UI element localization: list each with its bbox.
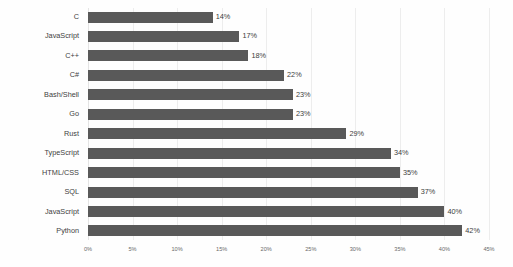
bar-row: 42%: [88, 222, 489, 240]
x-axis-tick-labels: 0%5%10%15%20%25%30%35%40%45%: [88, 245, 489, 257]
y-axis-label: TypeScript: [0, 144, 84, 162]
bar-row: 22%: [88, 66, 489, 84]
x-axis-tick-label: 35%: [394, 245, 405, 253]
x-axis-tick-label: 0%: [84, 245, 92, 253]
bar-row: 29%: [88, 125, 489, 143]
bar: [88, 148, 391, 159]
x-axis-tick-label: 20%: [261, 245, 272, 253]
bar-value-label: 35%: [403, 168, 418, 178]
bar-row: 18%: [88, 47, 489, 65]
y-axis-label: C: [0, 8, 84, 26]
bar: [88, 31, 239, 42]
bar: [88, 225, 462, 236]
bar: [88, 187, 418, 198]
y-axis-label: Python: [0, 222, 84, 240]
bar-value-label: 34%: [394, 148, 409, 158]
gridline: [489, 8, 490, 240]
bar-value-label: 14%: [216, 12, 231, 22]
y-axis-label: HTML/CSS: [0, 164, 84, 182]
bar-chart: CJavaScriptC++C#Bash/ShellGoRustTypeScri…: [0, 0, 513, 267]
plot-wrapper: CJavaScriptC++C#Bash/ShellGoRustTypeScri…: [0, 0, 513, 267]
bar-row: 34%: [88, 144, 489, 162]
bar-row: 14%: [88, 8, 489, 26]
x-axis-tick-label: 25%: [305, 245, 316, 253]
bar-value-label: 17%: [242, 31, 257, 41]
bar-value-label: 40%: [447, 207, 462, 217]
y-axis-label: SQL: [0, 183, 84, 201]
bar: [88, 206, 444, 217]
y-axis-label: C++: [0, 47, 84, 65]
bar-row: 23%: [88, 105, 489, 123]
x-axis-tick-label: 5%: [129, 245, 137, 253]
bar: [88, 12, 213, 23]
x-axis-tick-label: 45%: [483, 245, 494, 253]
x-axis-tick-label: 15%: [216, 245, 227, 253]
bar: [88, 70, 284, 81]
bar-row: 40%: [88, 203, 489, 221]
bar-value-label: 18%: [251, 51, 266, 61]
bar-series: 14%17%18%22%23%23%29%34%35%37%40%42%: [88, 8, 489, 240]
bar-value-label: 42%: [465, 226, 480, 236]
bar-value-label: 22%: [287, 70, 302, 80]
bar-value-label: 23%: [296, 109, 311, 119]
y-axis-label: Go: [0, 105, 84, 123]
bar-value-label: 23%: [296, 90, 311, 100]
bar-row: 17%: [88, 27, 489, 45]
plot-area: 14%17%18%22%23%23%29%34%35%37%40%42%: [88, 8, 489, 240]
x-axis-tick-label: 40%: [439, 245, 450, 253]
bar-row: 23%: [88, 86, 489, 104]
x-axis-tick-label: 10%: [172, 245, 183, 253]
y-axis-category-labels: CJavaScriptC++C#Bash/ShellGoRustTypeScri…: [0, 8, 84, 240]
y-axis-label: Bash/Shell: [0, 86, 84, 104]
bar: [88, 89, 293, 100]
bar: [88, 128, 346, 139]
y-axis-label: JavaScript: [0, 27, 84, 45]
y-axis-label: JavaScript: [0, 203, 84, 221]
bar-row: 35%: [88, 164, 489, 182]
bar: [88, 109, 293, 120]
bar-row: 37%: [88, 183, 489, 201]
bar: [88, 167, 400, 178]
bar-value-label: 29%: [349, 129, 364, 139]
x-axis-tick-label: 30%: [350, 245, 361, 253]
y-axis-label: C#: [0, 66, 84, 84]
bar: [88, 50, 248, 61]
bar-value-label: 37%: [421, 187, 436, 197]
y-axis-label: Rust: [0, 125, 84, 143]
